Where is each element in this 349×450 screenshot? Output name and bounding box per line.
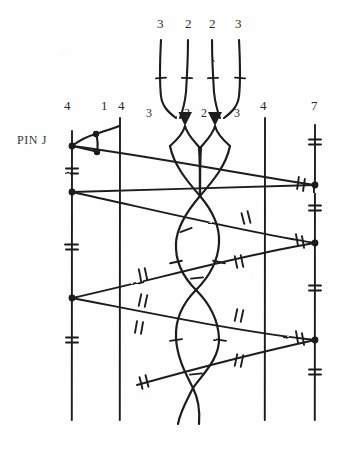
top-label-2: 2 (209, 17, 216, 30)
diag-2 (72, 185, 315, 192)
row-label-4: 2 (184, 107, 190, 119)
figure-canvas: 3 2 2 3 4 1 4 3 2 2 3 4 7 PIN J (0, 0, 349, 450)
row-label-5: 2 (201, 107, 207, 119)
top-label-1: 2 (185, 17, 192, 30)
pin-j-label: PIN J (17, 134, 47, 146)
knot-diagram-svg (0, 0, 349, 450)
top-label-0: 3 (157, 17, 164, 30)
v-splits (170, 126, 230, 147)
diag-4 (72, 243, 315, 298)
row-label-8: 7 (311, 99, 318, 112)
row-label-2: 4 (118, 99, 125, 112)
diag-3 (72, 192, 315, 243)
row-label-1: 1 (101, 99, 108, 112)
row-label-6: 3 (234, 107, 240, 119)
tick-marks (66, 78, 321, 389)
row-label-3: 3 (146, 107, 152, 119)
diag-5 (72, 298, 315, 340)
diag-1 (72, 146, 315, 185)
top-feeder-strands (160, 40, 240, 118)
row-label-0: 4 (64, 99, 71, 112)
pin-j-hook (72, 126, 119, 152)
diagonal-lines (72, 146, 315, 385)
row-label-7: 4 (260, 99, 267, 112)
diag-6 (137, 340, 315, 385)
top-label-3: 3 (235, 17, 242, 30)
